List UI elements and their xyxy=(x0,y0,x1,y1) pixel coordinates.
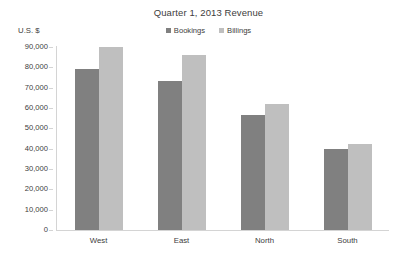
y-axis-tick-mark xyxy=(49,88,53,89)
y-axis-tick-mark xyxy=(49,149,53,150)
bar-group xyxy=(324,47,372,230)
legend-swatch-bookings xyxy=(166,28,171,33)
bar-bookings-north[interactable] xyxy=(241,115,265,230)
legend-swatch-billings xyxy=(219,28,224,33)
y-axis-tick-mark xyxy=(49,169,53,170)
x-axis-label-east: East xyxy=(140,236,223,245)
y-axis-tick-mark xyxy=(49,128,53,129)
bar-group xyxy=(158,47,206,230)
bar-group xyxy=(241,47,289,230)
y-axis-tick-mark xyxy=(49,210,53,211)
y-axis-tick-mark xyxy=(49,47,53,48)
y-axis-tick-label: 90,000 xyxy=(25,42,48,51)
y-axis-tick-mark xyxy=(49,189,53,190)
bar-billings-north[interactable] xyxy=(265,104,289,230)
bar-bookings-east[interactable] xyxy=(158,81,182,230)
plot-area xyxy=(57,47,389,230)
y-axis-tick-label: 10,000 xyxy=(25,205,48,214)
y-axis-title: U.S. $ xyxy=(18,26,40,35)
y-axis-tick-label: 50,000 xyxy=(25,123,48,132)
y-axis-tick-label: 20,000 xyxy=(25,184,48,193)
x-axis-label-south: South xyxy=(306,236,389,245)
bar-billings-south[interactable] xyxy=(348,144,372,230)
y-axis-tick-label: 70,000 xyxy=(25,83,48,92)
bar-bookings-west[interactable] xyxy=(75,69,99,230)
y-axis-tick-mark xyxy=(49,67,53,68)
x-axis-label-north: North xyxy=(223,236,306,245)
y-axis-tick-mark xyxy=(49,230,53,231)
y-axis-tick-label: 40,000 xyxy=(25,144,48,153)
chart-legend: Bookings Billings xyxy=(0,26,417,35)
bar-billings-east[interactable] xyxy=(182,55,206,230)
chart-title: Quarter 1, 2013 Revenue xyxy=(0,7,417,18)
bar-billings-west[interactable] xyxy=(99,47,123,230)
legend-label-bookings: Bookings xyxy=(174,26,205,35)
y-axis-tick-label: 0 xyxy=(44,225,48,234)
y-axis-tick-label: 80,000 xyxy=(25,62,48,71)
legend-item-billings[interactable]: Billings xyxy=(219,26,251,35)
legend-item-bookings[interactable]: Bookings xyxy=(166,26,205,35)
legend-label-billings: Billings xyxy=(227,26,251,35)
y-axis-tick-label: 30,000 xyxy=(25,164,48,173)
x-axis-label-west: West xyxy=(57,236,140,245)
y-axis-tick-mark xyxy=(49,108,53,109)
x-axis-line xyxy=(56,230,389,231)
bar-group xyxy=(75,47,123,230)
bar-bookings-south[interactable] xyxy=(324,149,348,230)
y-axis-tick-label: 60,000 xyxy=(25,103,48,112)
bar-chart: Quarter 1, 2013 Revenue Bookings Billing… xyxy=(0,0,417,255)
